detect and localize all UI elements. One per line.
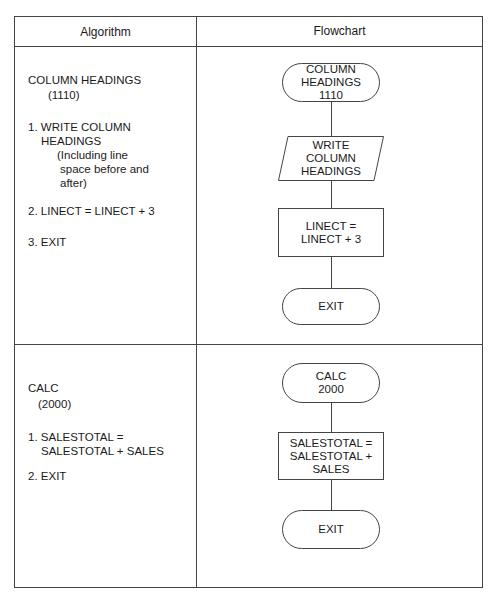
connector-2b	[331, 479, 332, 511]
algo-step-1-3: 3. EXIT	[28, 235, 66, 249]
flow-io-write-column-headings: WRITE COLUMN HEADINGS	[278, 136, 384, 181]
algo-title-1: COLUMN HEADINGS	[28, 73, 141, 87]
connector-2a	[331, 402, 332, 433]
algo-step-1-1d: space before and	[60, 162, 149, 176]
algo-step-1-1e: after)	[60, 176, 87, 190]
algo-step-1-1: 1. WRITE COLUMN	[28, 120, 131, 134]
flow-process-linect: LINECT = LINECT + 3	[278, 208, 384, 257]
flow-end-exit-2: EXIT	[282, 510, 380, 549]
header-divider	[14, 46, 483, 47]
algo-step-1-1b: HEADINGS	[41, 134, 101, 148]
row-divider	[14, 344, 483, 345]
header-flowchart: Flowchart	[197, 24, 482, 38]
algo-step-1-1c: (Including line	[57, 148, 128, 162]
algo-step-1-2: 2. LINECT = LINECT + 3	[28, 204, 155, 218]
table-border-top	[14, 16, 483, 17]
algo-step-2-1b: SALESTOTAL + SALES	[41, 444, 164, 458]
algo-title-2: CALC	[28, 381, 59, 395]
io-label: WRITE COLUMN HEADINGS	[278, 136, 384, 181]
table-border-right	[482, 16, 483, 588]
algo-code-1: (1110)	[48, 88, 80, 102]
header-algorithm: Algorithm	[15, 25, 196, 39]
connector-1a	[331, 101, 332, 137]
algo-step-2-2: 2. EXIT	[28, 469, 66, 483]
flow-end-exit-1: EXIT	[282, 288, 380, 325]
connector-1b	[331, 180, 332, 209]
flow-process-salestotal: SALESTOTAL = SALESTOTAL + SALES	[278, 432, 384, 480]
flow-start-calc: CALC 2000	[282, 363, 380, 403]
table-border-bottom	[14, 587, 483, 588]
algo-code-2: (2000)	[38, 397, 71, 411]
column-divider	[196, 16, 197, 588]
connector-1c	[331, 256, 332, 289]
algo-step-2-1: 1. SALESTOTAL =	[28, 430, 123, 444]
table-border-left	[14, 16, 15, 588]
flow-start-column-headings: COLUMN HEADINGS 1110	[282, 63, 380, 102]
